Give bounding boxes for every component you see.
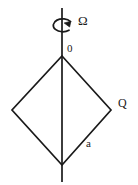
label-origin-zero: 0 xyxy=(67,43,73,54)
figure-canvas: Ω 0 Q a xyxy=(0,0,138,185)
label-point-q: Q xyxy=(118,97,127,109)
rotation-arrow-head xyxy=(64,21,71,27)
label-omega: Ω xyxy=(78,14,88,27)
rotating-rhombus-diagram xyxy=(0,0,138,185)
label-side-a: a xyxy=(86,138,91,149)
